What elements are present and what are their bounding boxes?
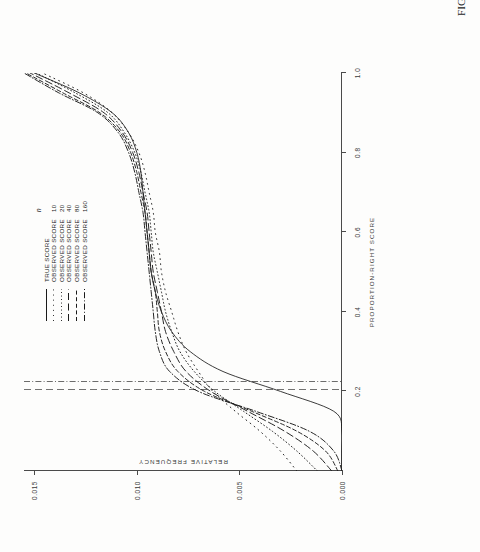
- legend-sample-row: [65, 287, 73, 321]
- legend-label: OBSERVED SCORE: [80, 219, 88, 282]
- y-tick-label: 0.015: [31, 481, 38, 500]
- legend-sample-row: [58, 287, 66, 321]
- legend-header-row: n: [34, 201, 42, 212]
- legend-n-value: [42, 201, 50, 212]
- rotated-figure: 0.20.40.60.81.0 0.0000.0050.0100.015 PRO…: [10, 47, 410, 517]
- y-axis-title: RELATIVE FREQUENCY: [138, 459, 228, 466]
- figure-region: 0.20.40.60.81.0 0.0000.0050.0100.015 PRO…: [0, 0, 480, 552]
- legend-sample-row: [42, 287, 50, 321]
- legend-sample-row: [73, 287, 81, 321]
- legend-sample-row: [80, 287, 88, 321]
- y-tick-mark: [342, 470, 343, 475]
- x-tick-label: 0.6: [354, 227, 361, 238]
- legend-n-value: 160: [80, 201, 88, 212]
- legend-label: TRUE SCORE: [42, 219, 50, 282]
- y-tick-label: 0.000: [339, 481, 346, 500]
- legend-n-values: n10204080160: [34, 201, 88, 212]
- caption-figure-number: FIG. 16.10.1.: [455, 0, 467, 16]
- legend-sample-row: [50, 287, 58, 321]
- legend-labels: TRUE SCOREOBSERVED SCOREOBSERVED SCOREOB…: [34, 219, 88, 282]
- x-tick-mark: [341, 152, 346, 153]
- legend-line-sample-n10: [52, 289, 55, 321]
- legend-n-value: 40: [65, 201, 73, 212]
- legend-n-value: 80: [73, 201, 81, 212]
- legend-line-sample-n40: [67, 289, 70, 321]
- y-tick-mark: [34, 470, 35, 475]
- y-tick-mark: [239, 470, 240, 475]
- x-axis-title: PROPORTION-RIGHT SCORE: [368, 217, 375, 328]
- y-tick-mark: [137, 470, 138, 475]
- legend: TRUE SCOREOBSERVED SCOREOBSERVED SCOREOB…: [34, 201, 88, 321]
- scanned-page: 0.20.40.60.81.0 0.0000.0050.0100.015 PRO…: [0, 0, 480, 552]
- x-tick-mark: [341, 72, 346, 73]
- legend-label: OBSERVED SCORE: [73, 219, 81, 282]
- figure-caption: FIG. 16.10.1. Estimated population true-…: [455, 0, 467, 16]
- legend-label: OBSERVED SCORE: [58, 219, 66, 282]
- legend-header-spacer: [34, 287, 42, 321]
- legend-header-spacer: [34, 219, 42, 282]
- x-tick-label: 0.8: [354, 147, 361, 158]
- x-tick-label: 1.0: [354, 68, 361, 79]
- legend-label: OBSERVED SCORE: [50, 219, 58, 282]
- x-tick-mark: [341, 311, 346, 312]
- legend-label: OBSERVED SCORE: [65, 219, 73, 282]
- y-tick-label: 0.005: [236, 481, 243, 500]
- legend-line-sample-n80: [75, 289, 78, 321]
- legend-n-value: 20: [58, 201, 66, 212]
- y-tick-label: 0.010: [133, 481, 140, 500]
- legend-n-header: n: [35, 208, 42, 212]
- x-tick-label: 0.4: [354, 306, 361, 317]
- x-tick-label: 0.2: [354, 386, 361, 397]
- x-tick-mark: [341, 390, 346, 391]
- legend-n-value: 10: [50, 201, 58, 212]
- legend-line-sample-true: [45, 289, 48, 321]
- legend-line-samples: [34, 287, 88, 321]
- x-tick-mark: [341, 231, 346, 232]
- legend-line-sample-n160: [83, 289, 86, 321]
- legend-line-sample-n20: [60, 289, 63, 321]
